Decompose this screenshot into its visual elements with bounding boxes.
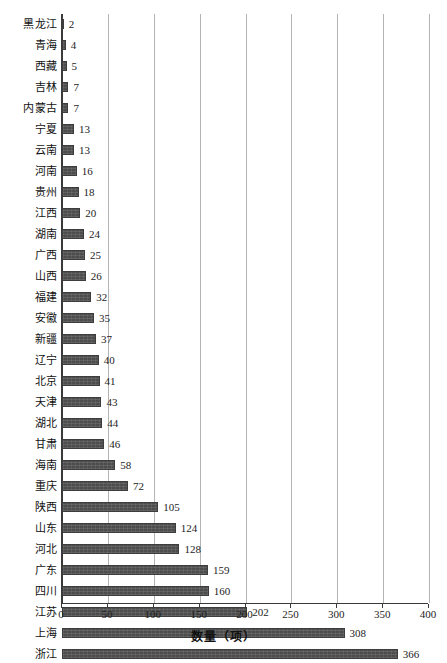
- bar-value-label: 13: [79, 120, 90, 138]
- bar-value-label: 41: [105, 372, 116, 390]
- category-label: 北京: [0, 371, 57, 392]
- bar-row: 124: [62, 518, 428, 539]
- bar-row: 37: [62, 329, 428, 350]
- category-label: 陕西: [0, 497, 57, 518]
- bar-value-label: 13: [79, 141, 90, 159]
- bar: [62, 40, 66, 50]
- bar: [62, 439, 104, 449]
- category-label: 新疆: [0, 329, 57, 350]
- bar: [62, 61, 67, 71]
- bar-row: 58: [62, 455, 428, 476]
- category-label: 辽宁: [0, 350, 57, 371]
- bar-row: 46: [62, 434, 428, 455]
- bar-value-label: 160: [214, 582, 231, 600]
- bar: [62, 187, 79, 197]
- category-label: 西藏: [0, 56, 57, 77]
- bar-row: 5: [62, 56, 428, 77]
- category-label: 海南: [0, 455, 57, 476]
- bar-value-label: 25: [90, 246, 101, 264]
- bar-value-label: 32: [96, 288, 107, 306]
- bar-row: 20: [62, 203, 428, 224]
- category-label: 山西: [0, 266, 57, 287]
- bar-value-label: 24: [89, 225, 100, 243]
- bar-value-label: 58: [120, 456, 131, 474]
- gridline-400: [429, 14, 430, 603]
- x-tick-label-400: 400: [408, 608, 447, 620]
- bar-value-label: 366: [403, 645, 420, 663]
- bar-value-label: 124: [181, 519, 198, 537]
- category-label: 广西: [0, 245, 57, 266]
- category-label: 广东: [0, 560, 57, 581]
- category-label: 湖南: [0, 224, 57, 245]
- bar: [62, 19, 64, 29]
- bar: [62, 649, 398, 659]
- bar: [62, 208, 80, 218]
- bar-value-label: 35: [99, 309, 110, 327]
- bar-row: 366: [62, 644, 428, 663]
- category-label: 江西: [0, 203, 57, 224]
- bar: [62, 481, 128, 491]
- bar-value-label: 16: [82, 162, 93, 180]
- category-label: 青海: [0, 35, 57, 56]
- bar: [62, 166, 77, 176]
- bar-row: 13: [62, 140, 428, 161]
- category-label: 福建: [0, 287, 57, 308]
- bar-row: 2: [62, 14, 428, 35]
- bar-row: 41: [62, 371, 428, 392]
- bar-value-label: 7: [73, 99, 79, 117]
- bar: [62, 124, 74, 134]
- bar: [62, 82, 68, 92]
- bar-row: 24: [62, 224, 428, 245]
- bar-value-label: 105: [163, 498, 180, 516]
- category-label: 山东: [0, 518, 57, 539]
- bar-row: 4: [62, 35, 428, 56]
- x-tick-label-300: 300: [316, 608, 356, 620]
- bar-row: 160: [62, 581, 428, 602]
- bar-value-label: 40: [104, 351, 115, 369]
- bar-value-label: 72: [133, 477, 144, 495]
- bar: [62, 376, 100, 386]
- x-tick-label-0: 0: [41, 608, 81, 620]
- category-label: 天津: [0, 392, 57, 413]
- bar-value-label: 44: [107, 414, 118, 432]
- bar-row: 32: [62, 287, 428, 308]
- bar-row: 25: [62, 245, 428, 266]
- bar-row: 44: [62, 413, 428, 434]
- x-tick-label-50: 50: [87, 608, 127, 620]
- category-label: 浙江: [0, 644, 57, 663]
- bar-row: 159: [62, 560, 428, 581]
- bar: [62, 145, 74, 155]
- bar: [62, 502, 158, 512]
- bar-row: 105: [62, 497, 428, 518]
- bar-value-label: 128: [184, 540, 201, 558]
- bar: [62, 586, 209, 596]
- x-axis-title: 数量（项）: [0, 627, 447, 645]
- bar: [62, 313, 94, 323]
- x-tick-label-200: 200: [225, 608, 265, 620]
- x-tick-label-150: 150: [179, 608, 219, 620]
- category-label: 甘肃: [0, 434, 57, 455]
- category-label: 宁夏: [0, 119, 57, 140]
- bar: [62, 544, 179, 554]
- category-label: 内蒙古: [0, 98, 57, 119]
- bar-value-label: 26: [91, 267, 102, 285]
- bar-row: 18: [62, 182, 428, 203]
- bar: [62, 250, 85, 260]
- category-label: 重庆: [0, 476, 57, 497]
- category-label: 云南: [0, 140, 57, 161]
- bar-value-label: 37: [101, 330, 112, 348]
- category-label: 河南: [0, 161, 57, 182]
- category-label: 贵州: [0, 182, 57, 203]
- bar-row: 26: [62, 266, 428, 287]
- bar-row: 7: [62, 98, 428, 119]
- bar: [62, 292, 91, 302]
- bar: [62, 523, 176, 533]
- bar-value-label: 46: [109, 435, 120, 453]
- bar-value-label: 2: [69, 15, 75, 33]
- x-tick-label-350: 350: [362, 608, 402, 620]
- bar-value-label: 5: [72, 57, 78, 75]
- plot-area: 2457713131618202425263235374041434446587…: [61, 14, 428, 604]
- bar-row: 7: [62, 77, 428, 98]
- bar-value-label: 43: [106, 393, 117, 411]
